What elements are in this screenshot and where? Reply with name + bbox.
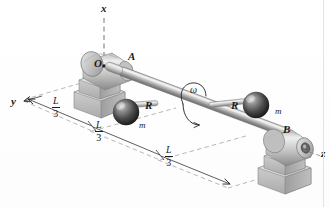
dimension-1-denominator: 3 (52, 109, 60, 120)
dimension-2-numerator: L (95, 120, 103, 131)
dimension-1-numerator: L (52, 96, 60, 107)
dimension-label-3: L 3 (165, 145, 173, 168)
mass-sphere-2-shade (243, 92, 269, 118)
dimension-3-denominator: 3 (165, 158, 173, 169)
y-axis-label: y (11, 96, 16, 107)
bearing-a-label: A (128, 51, 135, 62)
dimension-2-denominator: 3 (95, 133, 103, 144)
sphere-2-mass-label: m (275, 107, 282, 116)
bearing-b-label: B (283, 124, 290, 135)
shaft-assembly-diagram (0, 0, 330, 207)
figure-container: x y z O A B R m R m ω L 3 L 3 L 3 (0, 0, 330, 207)
sphere-1-radius-label: R (145, 100, 152, 111)
sphere-1-mass-label: m (139, 121, 146, 130)
dimension-3-numerator: L (165, 145, 173, 156)
mass-sphere-1-shade (113, 99, 139, 125)
dimension-label-2: L 3 (95, 120, 103, 143)
sphere-2-radius-label: R (231, 100, 238, 111)
origin-label: O (94, 58, 102, 69)
x-axis-label: x (101, 3, 107, 14)
angular-velocity-label: ω (190, 85, 197, 95)
dimension-label-1: L 3 (52, 96, 60, 119)
page-edge-rule (323, 0, 324, 207)
